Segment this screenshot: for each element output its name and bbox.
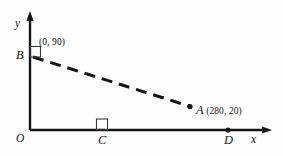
- point-a-dot: [187, 104, 192, 109]
- figure-canvas: [0, 0, 283, 156]
- origin-label: O: [16, 133, 24, 145]
- point-a-label: A: [196, 103, 204, 117]
- point-d-dot: [225, 127, 230, 132]
- point-a-coordinate-label: (280, 20): [206, 106, 242, 116]
- right-angle-marker-b: [30, 47, 41, 58]
- x-axis-arrowhead: [262, 126, 272, 133]
- point-c-label: C: [98, 134, 106, 147]
- point-b-coordinate-label: (0, 90): [39, 38, 65, 48]
- x-axis-label: x: [251, 134, 256, 146]
- coordinate-geometry-figure: y x O B C D (0, 90) A(280, 20): [0, 0, 283, 156]
- right-angle-marker-c: [97, 119, 108, 130]
- point-d-label: D: [224, 134, 233, 147]
- segment-b-to-a: [33, 57, 189, 106]
- point-b-label: B: [16, 49, 24, 62]
- y-axis-label: y: [15, 18, 20, 30]
- point-a-annotation: A(280, 20): [196, 101, 242, 117]
- y-axis-arrowhead: [26, 11, 33, 21]
